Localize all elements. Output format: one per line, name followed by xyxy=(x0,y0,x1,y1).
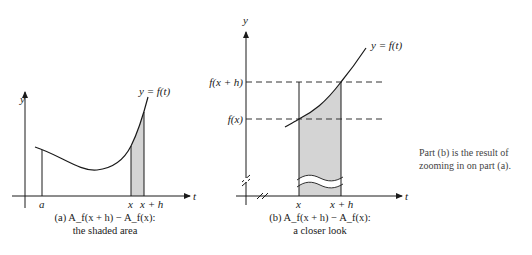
caption-b-line2: a closer look xyxy=(293,225,347,236)
level-label-fx: f(x) xyxy=(228,113,244,126)
t-axis-label-a: t xyxy=(193,190,197,202)
tick-a: a xyxy=(39,198,45,210)
tick-xh-b: x + h xyxy=(329,198,354,210)
curve-label-b: y = f(t) xyxy=(370,39,403,52)
y-axis-label-a: y xyxy=(19,93,25,105)
t-axis-label-b: t xyxy=(405,190,409,202)
curve-label-a: y = f(t) xyxy=(138,85,171,98)
caption-b-line1: (b) A_f(x + h) − A_f(x): xyxy=(269,212,370,224)
y-axis-label-b: y xyxy=(242,14,248,26)
side-note: Part (b) is the result of zooming in on … xyxy=(419,146,529,172)
caption-a-line2: the shaded area xyxy=(73,225,138,236)
caption-a-line1: (a) A_f(x + h) − A_f(x): xyxy=(55,212,156,224)
shaded-area-a xyxy=(131,112,144,196)
tick-xh-a: x + h xyxy=(139,198,164,210)
level-label-fxh: f(x + h) xyxy=(209,76,243,89)
panel-b: y t y = f(t) f(x + h) f(x) x x + h (b) A… xyxy=(209,14,409,236)
tick-x-a: x xyxy=(127,198,133,210)
tick-x-b: x xyxy=(295,198,301,210)
panel-a: y t y = f(t) a x x + h (a) A_f(x + h) − … xyxy=(12,85,197,236)
figure-canvas: y t y = f(t) a x x + h (a) A_f(x + h) − … xyxy=(0,0,532,255)
